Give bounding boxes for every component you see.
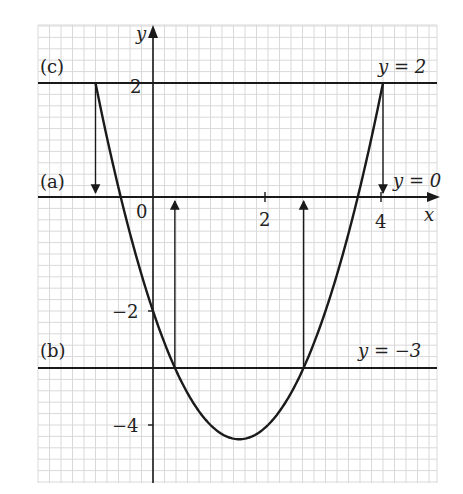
x-axis-arrow-icon — [427, 192, 440, 202]
y-axis-label: y — [135, 23, 147, 44]
y-axis-arrow-icon — [148, 25, 158, 38]
line-b-tag: (b) — [40, 340, 66, 361]
parabola-curve — [96, 83, 384, 439]
parabola-chart: y x 0 2 4 2 −2 −4 (c) (a) (b) y = 2 y = … — [0, 0, 463, 494]
line-c-tag: (c) — [40, 56, 64, 77]
x-tick-label-4: 4 — [375, 211, 386, 232]
x-tick-label-2: 2 — [259, 209, 270, 230]
arrows — [96, 83, 384, 368]
line-b-equation: y = −3 — [357, 340, 421, 361]
line-a-tag: (a) — [40, 171, 65, 192]
y-tick-label-2: 2 — [130, 76, 141, 97]
origin-label: 0 — [136, 201, 147, 222]
y-tick-label-m2: −2 — [112, 301, 139, 322]
x-axis-label: x — [424, 204, 434, 225]
line-a-equation: y = 0 — [392, 170, 441, 191]
y-tick-label-m4: −4 — [112, 415, 139, 436]
line-c-equation: y = 2 — [377, 56, 426, 77]
